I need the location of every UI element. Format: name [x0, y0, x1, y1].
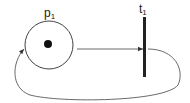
arc-t1-p1	[15, 49, 180, 100]
place-p1[interactable]	[25, 21, 73, 69]
token	[44, 40, 52, 48]
transition-t1[interactable]	[143, 17, 146, 77]
petri-net-diagram: p1 t1	[0, 0, 190, 103]
place-label-p1: p1	[44, 6, 56, 21]
transition-label-t1: t1	[139, 2, 147, 17]
